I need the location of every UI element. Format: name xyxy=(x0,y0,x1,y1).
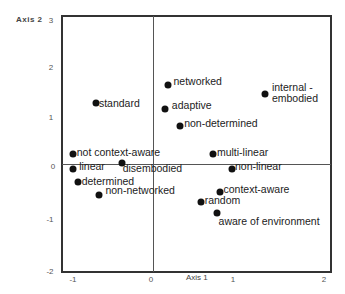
y-tick: -1 xyxy=(46,215,53,224)
data-point-label: context-aware xyxy=(224,184,290,195)
data-point-label: random xyxy=(205,195,241,206)
data-point xyxy=(262,91,269,98)
y-axis-label: Axis 2 xyxy=(16,15,43,24)
plot-frame xyxy=(61,15,332,273)
data-point xyxy=(197,198,204,205)
data-point-label: standard xyxy=(99,98,140,109)
x-tick: 1 xyxy=(231,275,235,284)
y-tick: 1 xyxy=(49,113,53,122)
data-point-label: internal -embodied xyxy=(272,82,318,104)
data-point xyxy=(69,166,76,173)
data-point xyxy=(177,122,184,129)
x-axis-label: Axis 1 xyxy=(186,273,208,282)
data-point xyxy=(95,191,102,198)
data-point xyxy=(162,105,169,112)
y-tick: -2 xyxy=(46,267,53,276)
x-tick: 0 xyxy=(149,275,153,284)
data-point-label: aware of environment xyxy=(219,216,320,227)
data-point-label: non-linear xyxy=(235,161,282,172)
data-point-label: non-networked xyxy=(105,185,174,196)
data-point-label: networked xyxy=(174,76,222,87)
zero-line-vertical xyxy=(153,16,154,272)
x-tick: 2 xyxy=(322,275,326,284)
data-point xyxy=(164,81,171,88)
scatter-chart: Axis 2 Axis 1 3 2 1 0 -1 -2 -1 0 1 2 net… xyxy=(0,0,345,294)
y-tick: 3 xyxy=(49,16,53,25)
x-tick: -1 xyxy=(69,275,76,284)
data-point xyxy=(74,179,81,186)
data-point-label: linear xyxy=(79,161,105,172)
data-point-label: not context-aware xyxy=(77,147,160,158)
y-tick: 0 xyxy=(51,162,55,171)
data-point-label: non-determined xyxy=(184,118,258,129)
data-point xyxy=(209,150,216,157)
y-tick: 2 xyxy=(49,63,53,72)
data-point-label: adaptive xyxy=(172,100,212,111)
data-point-label: disembodied xyxy=(123,163,183,174)
data-point-label: multi-linear xyxy=(217,147,268,158)
data-point xyxy=(69,150,76,157)
